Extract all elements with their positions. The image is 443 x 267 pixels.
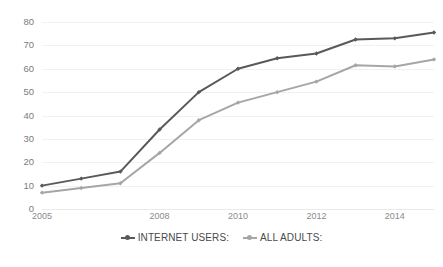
plot-area — [42, 22, 434, 209]
series-layer — [42, 22, 434, 209]
y-tick-label: 50 — [0, 87, 34, 97]
data-point-marker — [79, 176, 83, 180]
x-tick-label: 2014 — [385, 212, 405, 221]
y-tick-label: 0 — [0, 204, 34, 214]
x-axis-tick-labels: 20052008201020122014 — [42, 212, 434, 228]
legend-label: INTERNET USERS: — [138, 232, 229, 243]
legend-marker-icon — [243, 234, 257, 242]
legend-item[interactable]: ALL ADULTS: — [243, 232, 322, 243]
data-point-marker — [40, 190, 44, 194]
x-tick-label: 2005 — [32, 212, 52, 221]
data-point-marker — [432, 30, 436, 34]
data-point-marker — [393, 36, 397, 40]
y-tick-label: 40 — [0, 111, 34, 121]
data-point-marker — [393, 64, 397, 68]
y-tick-label: 30 — [0, 134, 34, 144]
data-point-marker — [79, 186, 83, 190]
series-line — [42, 59, 434, 192]
y-tick-label: 10 — [0, 181, 34, 191]
data-point-marker — [40, 183, 44, 187]
y-tick-label: 60 — [0, 64, 34, 74]
gridline-0 — [42, 209, 434, 210]
x-tick-label: 2010 — [228, 212, 248, 221]
line-chart: 01020304050607080 20052008201020122014 I… — [0, 0, 443, 267]
legend-label: ALL ADULTS: — [260, 232, 322, 243]
data-point-marker — [275, 90, 279, 94]
legend-item[interactable]: INTERNET USERS: — [121, 232, 229, 243]
y-tick-label: 70 — [0, 40, 34, 50]
chart-legend: INTERNET USERS:ALL ADULTS: — [0, 232, 443, 243]
data-point-marker — [275, 56, 279, 60]
x-tick-label: 2008 — [150, 212, 170, 221]
data-point-marker — [432, 57, 436, 61]
legend-marker-icon — [121, 234, 135, 242]
y-tick-label: 80 — [0, 17, 34, 27]
x-tick-label: 2012 — [306, 212, 326, 221]
y-tick-label: 20 — [0, 157, 34, 167]
series-line — [42, 33, 434, 186]
